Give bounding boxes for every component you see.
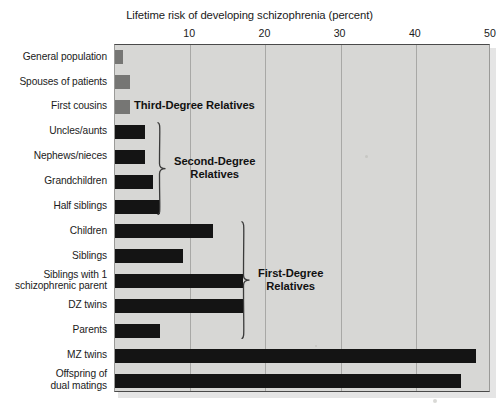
x-tick-label-20: 20	[258, 27, 270, 39]
gridline-40	[416, 45, 417, 391]
bar	[115, 75, 130, 89]
plot-area	[114, 44, 490, 392]
y-axis-label: DZ twins	[68, 299, 107, 311]
y-axis-label: Children	[70, 225, 107, 237]
gridline-20	[265, 45, 266, 391]
group-label-first-degree: First-Degree Relatives	[258, 267, 323, 293]
y-axis-category-labels: General populationSpouses of patientsFir…	[0, 0, 112, 406]
y-axis-label: Grandchildren	[44, 175, 107, 187]
paper-speck	[315, 345, 317, 347]
bar	[115, 200, 160, 214]
y-axis-label: Uncles/aunts	[49, 125, 107, 137]
y-axis-label: Half siblings	[53, 200, 107, 212]
bar	[115, 50, 123, 64]
y-axis-label: First cousins	[51, 100, 107, 112]
paper-speck	[365, 155, 368, 158]
x-tick-label-50: 50	[484, 27, 496, 39]
y-axis-label: MZ twins	[67, 349, 107, 361]
gridline-30	[341, 45, 342, 391]
bar	[115, 324, 160, 338]
curly-bracket-icon	[240, 221, 251, 339]
schizophrenia-risk-bar-chart: Lifetime risk of developing schizophreni…	[0, 0, 499, 406]
curly-bracket-icon	[156, 122, 167, 215]
y-axis-label: Siblings	[72, 250, 107, 262]
bar	[115, 299, 243, 313]
bar	[115, 150, 145, 164]
gridline-10	[190, 45, 191, 391]
x-tick-label-10: 10	[183, 27, 195, 39]
y-axis-label: Nephews/nieces	[34, 150, 107, 162]
bar	[115, 249, 183, 263]
bar	[115, 125, 145, 139]
bar	[115, 274, 243, 288]
group-label-second-degree: Second-Degree Relatives	[174, 155, 255, 181]
bar	[115, 224, 213, 238]
paper-speck	[433, 399, 437, 403]
bar	[115, 349, 476, 363]
bar	[115, 175, 153, 189]
bar	[115, 374, 461, 388]
bar	[115, 100, 130, 114]
group-label-third-degree: Third-Degree Relatives	[134, 99, 255, 111]
y-axis-label: Spouses of patients	[19, 76, 107, 88]
x-tick-label-40: 40	[409, 27, 421, 39]
y-axis-label: Siblings with 1 schizophrenic parent	[15, 269, 107, 292]
y-axis-label: General population	[23, 51, 107, 63]
x-tick-label-30: 30	[334, 27, 346, 39]
y-axis-label: Parents	[73, 324, 107, 336]
y-axis-label: Offspring of dual matings	[50, 368, 107, 391]
